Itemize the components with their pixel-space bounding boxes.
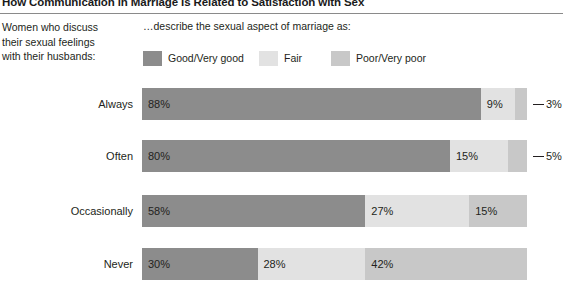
row-label-never: Never [0, 248, 133, 280]
bar-row: Never30%28%42% [0, 248, 563, 280]
segment-value-label: 42% [371, 258, 393, 270]
bar-segment: 28% [258, 248, 366, 280]
bar-track: 88%9% [142, 88, 527, 120]
callout-leader-line [533, 156, 544, 157]
bar-segment: 80% [142, 140, 450, 172]
segment-value-label: 30% [148, 258, 170, 270]
segment-value-label: 9% [487, 98, 503, 110]
bar-segment: 42% [365, 248, 527, 280]
bar-segment: 15% [450, 140, 508, 172]
bar-segment [508, 140, 527, 172]
bar-segment: 27% [365, 195, 469, 227]
callout-leader-line [533, 104, 544, 105]
bar-segment: 9% [481, 88, 516, 120]
segment-value-label: 28% [264, 258, 286, 270]
chart-root: How Communication in Marriage Is Related… [0, 0, 563, 284]
bar-segment [515, 88, 527, 120]
bar-segment: 15% [469, 195, 527, 227]
bar-track: 30%28%42% [142, 248, 527, 280]
bar-segment: 88% [142, 88, 481, 120]
row-label-always: Always [0, 88, 133, 120]
row-label-occasionally: Occasionally [0, 195, 133, 227]
bar-segment: 30% [142, 248, 258, 280]
row-label-often: Often [0, 140, 133, 172]
bar-segment: 58% [142, 195, 365, 227]
bar-track: 80%15% [142, 140, 527, 172]
segment-value-label: 15% [456, 150, 478, 162]
segment-callout: 3% [533, 88, 562, 120]
segment-callout: 5% [533, 140, 562, 172]
segment-value-label: 27% [371, 205, 393, 217]
bar-track: 58%27%15% [142, 195, 527, 227]
segment-value-label: 88% [148, 98, 170, 110]
callout-value-label: 5% [546, 150, 562, 162]
segment-value-label: 80% [148, 150, 170, 162]
bar-row: Always3%88%9% [0, 88, 563, 120]
bar-row: Often5%80%15% [0, 140, 563, 172]
chart-plot-area: Always3%88%9%Often5%80%15%Occasionally58… [0, 0, 563, 284]
bar-row: Occasionally58%27%15% [0, 195, 563, 227]
segment-value-label: 15% [475, 205, 497, 217]
segment-value-label: 58% [148, 205, 170, 217]
callout-value-label: 3% [546, 98, 562, 110]
